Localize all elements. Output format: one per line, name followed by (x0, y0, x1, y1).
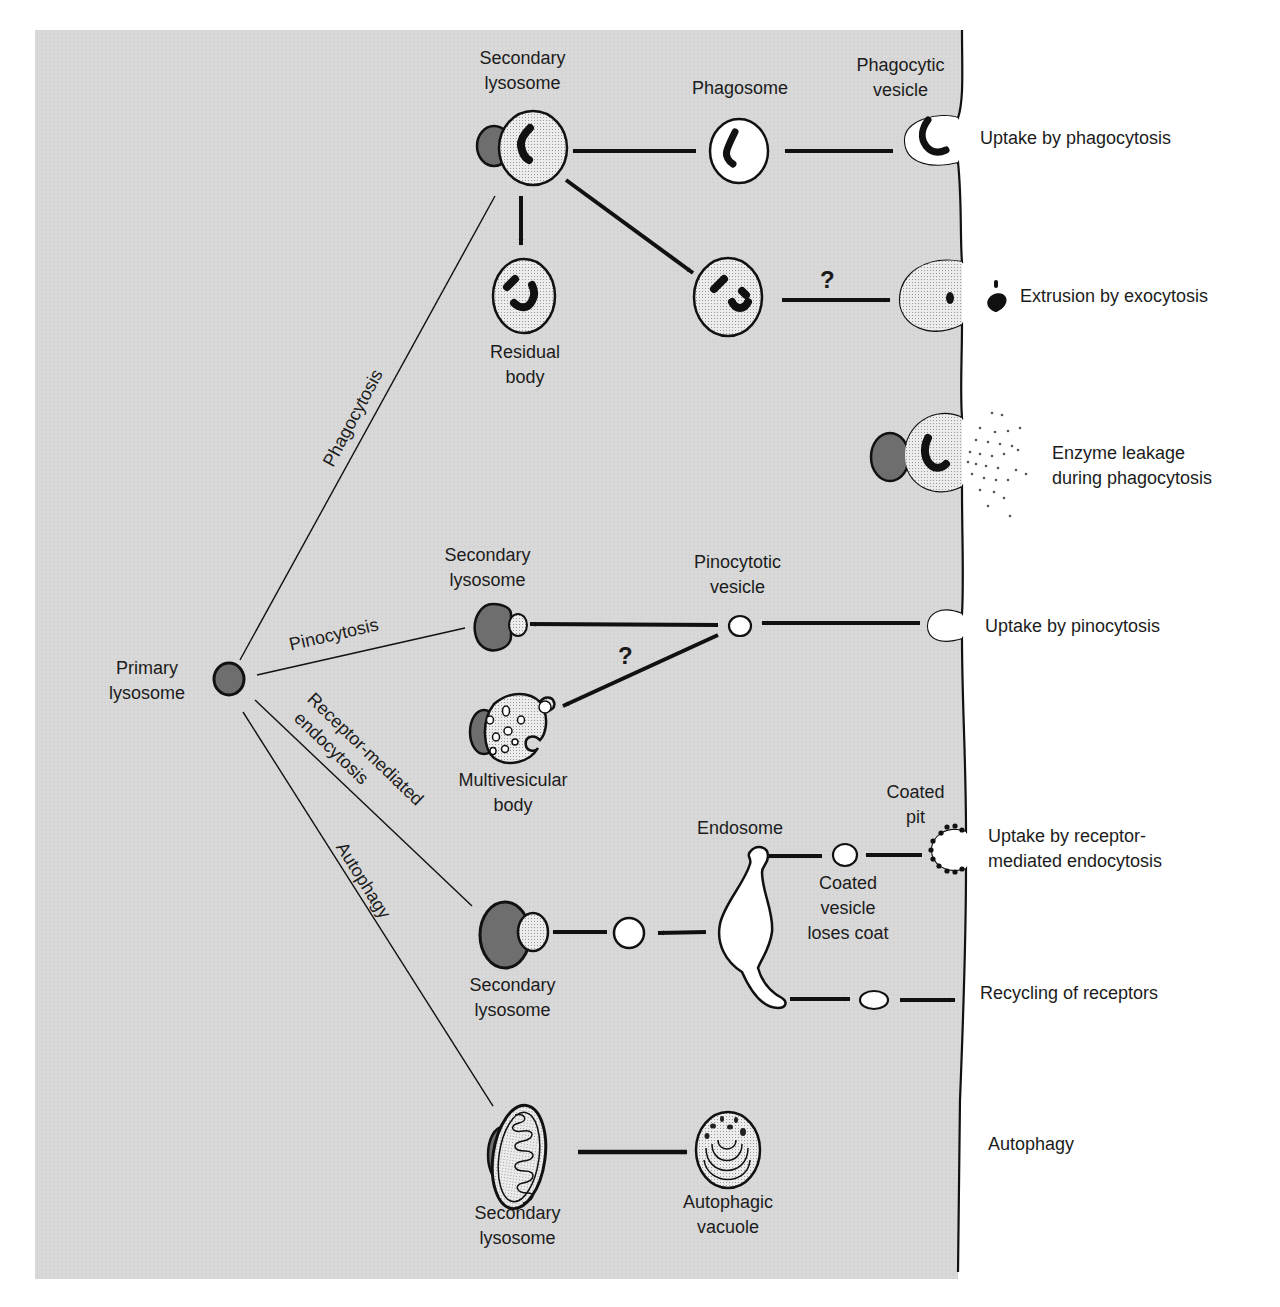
phagosome (710, 119, 768, 183)
transport-vesicle (614, 918, 644, 948)
label-pinocytotic-vesicle: Pinocytotic vesicle (675, 550, 800, 600)
label-phagocytic-vesicle: Phagocytic vesicle (838, 53, 963, 103)
arrow-endosome-to-vesicle (658, 932, 706, 933)
outside-label-uptake-pinocytosis: Uptake by pinocytosis (985, 614, 1160, 639)
enzyme-dots (967, 412, 1028, 518)
exocytosis-vacuole (900, 261, 1005, 331)
residual-body (493, 259, 555, 333)
label-residual-body: Residual body (470, 340, 580, 390)
label-coated-vesicle: Coated vesicle loses coat (788, 871, 908, 946)
exocytic-vacuole (694, 258, 762, 336)
question-mark-exocytosis: ? (820, 266, 835, 294)
pinocytic-invagination (928, 611, 962, 641)
pinocytotic-vesicle (729, 616, 751, 636)
cell-cytoplasm (35, 30, 966, 1279)
recycling-vesicle (860, 991, 888, 1009)
label-secondary-lysosome-pino: Secondary lysosome (430, 543, 545, 593)
outside-label-uptake-phagocytosis: Uptake by phagocytosis (980, 126, 1171, 151)
arrow-to-secondary-lysosome-pino (530, 624, 718, 625)
label-autophagic-vacuole: Autophagic vacuole (668, 1190, 788, 1240)
outside-label-extrusion-exocytosis: Extrusion by exocytosis (1020, 284, 1208, 309)
label-secondary-lysosome-phago: Secondary lysosome (465, 46, 580, 96)
outside-label-uptake-rme: Uptake by receptor- mediated endocytosis (988, 824, 1162, 874)
label-secondary-lysosome-auto: Secondary lysosome (460, 1201, 575, 1251)
label-coated-pit: Coated pit (868, 780, 963, 830)
autophagic-vacuole (696, 1112, 760, 1188)
label-phagosome: Phagosome (670, 76, 810, 101)
primary-lysosome (214, 663, 244, 695)
outside-label-recycling: Recycling of receptors (980, 981, 1158, 1006)
label-secondary-lysosome-rme: Secondary lysosome (455, 973, 570, 1023)
lysosome-pathways-diagram (0, 0, 1280, 1307)
question-mark-mvb: ? (618, 642, 633, 670)
label-primary-lysosome: Primary lysosome (92, 656, 202, 706)
outside-label-enzyme-leakage: Enzyme leakage during phagocytosis (1052, 441, 1212, 491)
label-endosome: Endosome (680, 816, 800, 841)
label-multivesicular-body: Multivesicular body (443, 768, 583, 818)
coated-vesicle (833, 844, 857, 866)
outside-label-autophagy: Autophagy (988, 1132, 1074, 1157)
